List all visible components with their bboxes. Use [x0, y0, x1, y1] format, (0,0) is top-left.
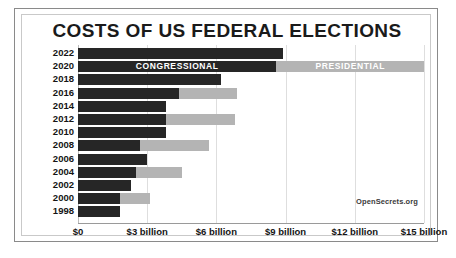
x-tick-label: $15 billion: [389, 226, 456, 237]
y-axis-label: 1998: [22, 205, 74, 217]
y-axis-label: 2002: [22, 179, 74, 191]
bar-segment-congressional: [78, 167, 136, 178]
bar-segment-congressional: [78, 154, 147, 165]
x-tick-label: $12 billion: [320, 226, 390, 237]
bar-row: 2008: [22, 139, 430, 152]
stacked-bar: [78, 167, 424, 178]
bar-segment-presidential: [179, 88, 237, 99]
bar-segment-congressional: [78, 140, 140, 151]
stacked-bar: [78, 101, 424, 112]
y-axis-label: 2006: [22, 153, 74, 165]
chart-title: COSTS OF US FEDERAL ELECTIONS: [22, 20, 432, 42]
x-tick-label: $9 billion: [251, 226, 321, 237]
bar-row: 2016: [22, 87, 430, 100]
stacked-bar: CONGRESSIONALPRESIDENTIAL: [78, 61, 424, 72]
stacked-bar: [78, 180, 424, 191]
stacked-bar: [78, 48, 424, 59]
bar-row: 2014: [22, 100, 430, 113]
y-axis-label: 2020: [22, 60, 74, 72]
y-axis-label: 2000: [22, 192, 74, 204]
bar-segment-congressional: [78, 101, 166, 112]
bar-row: 2006: [22, 153, 430, 166]
stacked-bar: [78, 154, 424, 165]
bar-row: 2012: [22, 113, 430, 126]
bar-segment-presidential: [166, 114, 235, 125]
stacked-bar: [78, 88, 424, 99]
stacked-bar: [78, 74, 424, 85]
bar-row: 2004: [22, 166, 430, 179]
y-axis-label: 2004: [22, 166, 74, 178]
stacked-bar: [78, 127, 424, 138]
stacked-bar: [78, 206, 424, 217]
x-tick-label: $6 billion: [181, 226, 251, 237]
bar-segment-congressional: [78, 193, 120, 204]
chart-outer-frame: COSTS OF US FEDERAL ELECTIONS 20222020CO…: [14, 8, 438, 242]
x-tick-label: $3 billion: [112, 226, 182, 237]
y-axis-label: 2022: [22, 47, 74, 59]
series-inline-label-congressional: CONGRESSIONAL: [78, 61, 276, 72]
x-axis-line: [78, 223, 424, 224]
series-inline-label-presidential: PRESIDENTIAL: [276, 61, 424, 72]
bar-segment-congressional: [78, 48, 283, 59]
chart-inner-frame: COSTS OF US FEDERAL ELECTIONS 20222020CO…: [21, 14, 431, 236]
source-credit: OpenSecrets.org: [356, 197, 418, 206]
chart-plot-area: 20222020CONGRESSIONALPRESIDENTIAL2018201…: [22, 45, 430, 235]
y-axis-label: 2008: [22, 139, 74, 151]
bar-row: 1998: [22, 205, 430, 218]
bar-segment-congressional: [78, 74, 221, 85]
y-axis-label: 2012: [22, 113, 74, 125]
bar-row: 2020CONGRESSIONALPRESIDENTIAL: [22, 60, 430, 73]
bar-segment-presidential: [136, 167, 182, 178]
bar-segment-congressional: [78, 127, 166, 138]
bar-segment-congressional: [78, 206, 120, 217]
bar-segment-congressional: [78, 180, 131, 191]
x-tick-label: $0: [43, 226, 113, 237]
bar-segment-congressional: [78, 114, 166, 125]
bar-row: 2010: [22, 126, 430, 139]
bar-row: 2022: [22, 47, 430, 60]
bar-row: 2002: [22, 179, 430, 192]
stacked-bar: [78, 140, 424, 151]
bar-row: 2018: [22, 73, 430, 86]
bar-segment-congressional: [78, 88, 179, 99]
y-axis-label: 2016: [22, 87, 74, 99]
bar-segment-presidential: [140, 140, 209, 151]
y-axis-label: 2014: [22, 100, 74, 112]
stacked-bar: [78, 114, 424, 125]
bar-segment-presidential: [120, 193, 150, 204]
y-axis-label: 2010: [22, 126, 74, 138]
y-axis-label: 2018: [22, 73, 74, 85]
